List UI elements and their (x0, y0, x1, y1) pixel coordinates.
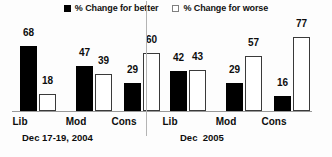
category-label-cons-2004: Cons (104, 116, 144, 127)
legend-entry-better: % Change for better (64, 3, 159, 13)
category-label-lib-2004: Lib (0, 116, 40, 127)
period-label-2004: Dec 17-19, 2004 (22, 132, 93, 143)
plot-area: 68 18 47 39 29 60 42 43 (12, 22, 312, 112)
bar-value-better: 42 (170, 53, 187, 63)
bar-value-worse: 57 (245, 38, 262, 48)
bar-worse (245, 56, 262, 111)
period-label-2005: Dec 2005 (180, 132, 224, 143)
bar-better (124, 83, 141, 111)
bar-value-better: 16 (274, 78, 291, 88)
bar-value-worse: 77 (293, 19, 310, 29)
bar-worse (95, 74, 112, 111)
x-axis-line (12, 111, 312, 112)
bar-value-better: 47 (76, 48, 93, 58)
bar-pair-lib-2005: 42 43 (170, 21, 208, 111)
category-label-mod-2004: Mod (56, 116, 96, 127)
category-label-lib-2005: Lib (150, 116, 190, 127)
bar-pair-cons-2004: 29 60 (124, 21, 162, 111)
hollow-square-icon (172, 5, 179, 12)
bar-value-worse: 39 (95, 56, 112, 66)
period-label-row: Dec 17-19, 2004 Dec 2005 (12, 132, 312, 146)
bar-worse (189, 70, 206, 111)
bar-value-better: 29 (124, 65, 141, 75)
bar-better (274, 96, 291, 111)
category-label-mod-2005: Mod (206, 116, 246, 127)
bar-pair-cons-2005: 16 77 (274, 21, 312, 111)
bar-better (20, 46, 37, 111)
legend-entry-worse: % Change for worse (172, 3, 268, 13)
bar-worse (39, 94, 56, 111)
bar-value-worse: 18 (39, 76, 56, 86)
bar-better (76, 66, 93, 111)
bar-worse (293, 37, 310, 111)
bar-pair-mod-2004: 47 39 (76, 21, 114, 111)
filled-square-icon (64, 5, 71, 12)
bar-pair-lib-2004: 68 18 (20, 21, 58, 111)
bar-better (226, 83, 243, 111)
category-label-row: Lib Mod Cons Lib Mod Cons (12, 116, 312, 130)
bar-value-better: 29 (226, 65, 243, 75)
bar-pair-mod-2005: 29 57 (226, 21, 264, 111)
category-label-cons-2005: Cons (254, 116, 294, 127)
bar-better (170, 71, 187, 111)
bar-chart: % Change for better % Change for worse 6… (0, 0, 332, 157)
chart-legend: % Change for better % Change for worse (0, 3, 332, 13)
legend-label-worse: % Change for worse (183, 3, 268, 13)
bar-value-better: 68 (20, 28, 37, 38)
bar-value-worse: 43 (189, 52, 206, 62)
